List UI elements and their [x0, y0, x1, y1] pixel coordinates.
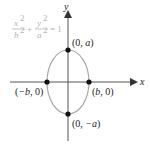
eq-a: a — [37, 30, 42, 40]
eq-a-exp: 2 — [43, 25, 48, 35]
eq-plus: + — [27, 24, 32, 34]
top-vertex-label: (0, a) — [72, 37, 94, 49]
x-axis-label: x — [139, 76, 145, 87]
diagram-svg: x 2 b 2 + y 2 a 2 = 1 x y (0, a) (0, −a)… — [0, 0, 150, 145]
eq-y: y — [36, 18, 41, 28]
ellipse-diagram: x 2 b 2 + y 2 a 2 = 1 x y (0, a) (0, −a)… — [0, 0, 150, 145]
y-axis-label: y — [63, 1, 69, 12]
top-vertex-point — [65, 47, 70, 52]
right-vertex-label: (b, 0) — [92, 86, 114, 98]
eq-x: x — [13, 18, 18, 28]
eq-y-exp: 2 — [43, 13, 48, 23]
ellipse-equation: x 2 b 2 + y 2 a 2 = 1 — [12, 13, 62, 40]
eq-x-exp: 2 — [20, 13, 25, 23]
eq-equals: = 1 — [50, 24, 62, 34]
left-vertex-label: (−b, 0) — [15, 86, 43, 98]
left-vertex-point — [44, 79, 49, 84]
eq-b-exp: 2 — [20, 25, 25, 35]
right-vertex-point — [86, 79, 91, 84]
eq-b: b — [14, 30, 19, 40]
bottom-vertex-point — [65, 111, 70, 116]
bottom-vertex-label: (0, −a) — [72, 118, 100, 130]
